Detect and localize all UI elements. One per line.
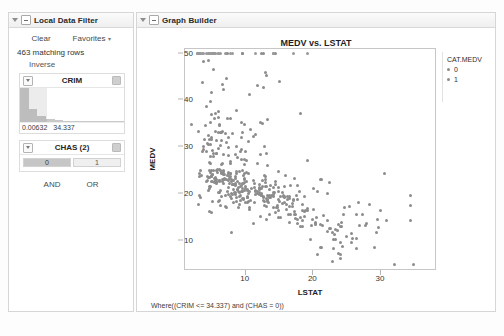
scatter-point — [266, 164, 269, 167]
filter-card-chas: CHAS (2) 0 1 — [19, 140, 125, 172]
favorites-button[interactable]: Favorites▾ — [73, 34, 111, 43]
or-button[interactable]: OR — [86, 180, 98, 189]
legend-item-1[interactable]: 1 — [447, 76, 497, 83]
crim-histogram[interactable] — [20, 88, 124, 122]
triangle-down-icon[interactable] — [12, 18, 18, 22]
scatter-point — [230, 197, 233, 200]
where-clause-text: Where((CRIM <= 34.337) and (CHAS = 0)) — [151, 302, 284, 309]
scatter-point — [227, 154, 230, 157]
scatter-point — [264, 71, 267, 74]
clear-button[interactable]: Clear — [31, 34, 50, 43]
and-button[interactable]: AND — [44, 180, 61, 189]
scatter-point — [268, 213, 271, 216]
inverse-checkbox-label[interactable]: Inverse — [9, 57, 133, 73]
scatter-point — [266, 118, 269, 121]
crim-max-label[interactable]: 34.337 — [53, 124, 74, 131]
scatter-point — [229, 160, 232, 163]
filter-menu-icon[interactable] — [112, 76, 121, 85]
chevron-down-icon: ▾ — [108, 36, 111, 42]
histogram-bar — [72, 121, 81, 122]
scatter-point — [210, 113, 213, 116]
scatter-point — [247, 140, 250, 143]
scatter-point — [254, 133, 257, 136]
scatter-point — [221, 83, 224, 86]
scatter-point — [247, 172, 250, 175]
scatter-point — [252, 179, 255, 182]
scatter-point — [259, 215, 262, 218]
scatter-point — [215, 139, 218, 142]
chas-category-bars: 0 1 — [20, 155, 124, 171]
scatter-point — [284, 174, 287, 177]
scatter-point — [217, 110, 220, 113]
scatter-point — [296, 222, 299, 225]
scatter-point — [288, 205, 291, 208]
scatter-point — [231, 193, 234, 196]
scatter-point — [220, 172, 223, 175]
scatter-point — [217, 116, 220, 119]
histogram-bar — [46, 119, 55, 122]
histogram-bar — [89, 121, 98, 122]
scatter-point — [377, 226, 380, 229]
scatter-point — [296, 218, 299, 221]
chas-category-1[interactable]: 1 — [73, 158, 121, 167]
scatter-point — [333, 233, 336, 236]
legend-title: CAT.MEDV — [447, 56, 497, 63]
legend-label-1: 1 — [454, 76, 458, 83]
minimize-icon[interactable] — [149, 15, 159, 25]
minimize-icon[interactable] — [21, 15, 31, 25]
logic-operator-row: AND OR — [9, 178, 133, 189]
scatter-point — [205, 105, 208, 108]
scatter-point — [341, 245, 344, 248]
graph-builder-header[interactable]: Graph Builder — [137, 13, 495, 28]
x-axis-tick-label: 20 — [300, 274, 324, 283]
scatter-point — [253, 201, 256, 204]
legend-dot-icon — [447, 78, 450, 81]
scatter-point — [212, 155, 215, 158]
histogram-bar — [115, 121, 124, 122]
triangle-down-icon[interactable] — [23, 76, 33, 86]
local-data-filter-header[interactable]: Local Data Filter — [9, 13, 133, 28]
scatter-point — [345, 235, 348, 238]
scatter-point — [340, 225, 343, 228]
filter-menu-icon[interactable] — [112, 143, 121, 152]
crim-histogram-selection[interactable] — [20, 88, 47, 122]
scatter-point — [213, 117, 216, 120]
scatter-point — [385, 219, 388, 222]
scatter-point — [320, 178, 323, 181]
x-axis-tick-mark — [245, 270, 246, 275]
scatter-point — [277, 209, 280, 212]
x-axis-tick-mark — [380, 270, 381, 275]
scatter-point — [240, 136, 243, 139]
chart-legend: CAT.MEDV 0 1 — [447, 56, 497, 86]
scatter-point — [253, 182, 256, 185]
scatter-point — [306, 159, 309, 162]
scatter-point — [243, 163, 246, 166]
scatter-plot[interactable] — [184, 48, 436, 270]
scatter-point — [375, 231, 378, 234]
scatter-point — [331, 260, 334, 263]
crim-min-label[interactable]: 0.00632 — [22, 124, 47, 131]
triangle-down-icon[interactable] — [23, 143, 33, 153]
app-window: Local Data Filter Clear Favorites▾ 463 m… — [0, 0, 504, 336]
scatter-point — [301, 203, 304, 206]
scatter-point — [236, 156, 239, 159]
scatter-point — [240, 184, 243, 187]
scatter-point — [315, 216, 318, 219]
triangle-down-icon[interactable] — [140, 18, 146, 22]
scatter-point — [214, 130, 217, 133]
scatter-point — [254, 193, 257, 196]
scatter-point — [262, 86, 265, 89]
scatter-point — [334, 238, 337, 241]
legend-item-0[interactable]: 0 — [447, 66, 497, 73]
scatter-point — [272, 195, 275, 198]
scatter-point — [227, 146, 230, 149]
legend-label-0: 0 — [454, 66, 458, 73]
scatter-point — [222, 88, 225, 91]
filter-header-chas[interactable]: CHAS (2) — [20, 141, 124, 155]
scatter-point — [331, 231, 334, 234]
scatter-point — [209, 100, 212, 103]
filter-header-crim[interactable]: CRIM — [20, 74, 124, 88]
scatter-point — [412, 263, 415, 266]
scatter-point — [365, 222, 368, 225]
chas-category-0[interactable]: 0 — [23, 158, 71, 167]
